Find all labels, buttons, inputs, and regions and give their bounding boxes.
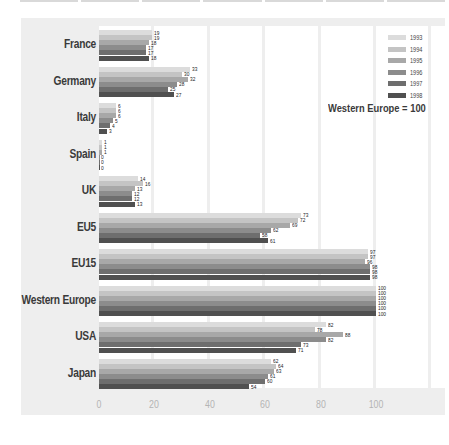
- legend-swatch: [388, 93, 406, 98]
- legend-item: 1997: [388, 78, 426, 90]
- x-tick-label: 0: [97, 398, 102, 410]
- category-label: Western Europe: [0, 293, 96, 307]
- top-divider-strip: [20, 0, 445, 3]
- bar-value-label: 72: [300, 217, 305, 223]
- bar: [99, 129, 107, 134]
- bar-value-label: 1: [104, 149, 107, 155]
- legend-label: 1996: [410, 69, 422, 76]
- bar-value-label: 62: [273, 227, 278, 233]
- legend-item: 1996: [388, 67, 426, 79]
- x-tick-label: 100: [369, 398, 384, 410]
- legend-swatch: [388, 35, 406, 40]
- bar-value-label: 60: [267, 378, 272, 384]
- category-label: Japan: [0, 366, 96, 380]
- bar-value-label: 82: [328, 337, 333, 343]
- category-label: Spain: [0, 147, 96, 161]
- bar-value-label: 73: [303, 342, 308, 348]
- legend-item: 1993: [388, 32, 426, 44]
- bar-value-label: 82: [328, 322, 333, 328]
- legend-label: 1994: [410, 46, 422, 53]
- bar-value-label: 18: [151, 55, 156, 61]
- x-tick-label: 80: [316, 398, 326, 410]
- x-tick-label: 40: [205, 398, 215, 410]
- bar-value-label: 100: [378, 311, 386, 317]
- bar: [99, 348, 296, 353]
- bar-value-label: 27: [176, 92, 181, 98]
- legend-swatch: [388, 81, 406, 86]
- bar: [99, 384, 249, 389]
- bar-value-label: 5: [115, 118, 118, 124]
- legend-label: 1997: [410, 80, 422, 87]
- bar-value-label: 0: [101, 165, 104, 171]
- category-label: EU5: [0, 220, 96, 234]
- x-tick-label: 60: [260, 398, 270, 410]
- legend-item: 1998: [388, 90, 426, 102]
- bar: [99, 92, 174, 97]
- bar: [99, 275, 370, 280]
- bar-value-label: 71: [298, 347, 303, 353]
- bar-value-label: 63: [276, 368, 281, 374]
- x-tick-label: 20: [149, 398, 159, 410]
- bar-value-label: 3: [109, 128, 112, 134]
- chart-annotation: Western Europe = 100: [328, 102, 426, 114]
- bar: [99, 311, 376, 316]
- legend-swatch: [388, 47, 406, 52]
- bar: [99, 202, 135, 207]
- bar-value-label: 13: [137, 201, 142, 207]
- grid-band: [431, 26, 449, 388]
- category-label: France: [0, 37, 96, 51]
- bar: [99, 56, 149, 61]
- bar-value-label: 61: [270, 238, 275, 244]
- category-label: USA: [0, 329, 96, 343]
- category-label: UK: [0, 183, 96, 197]
- bar-value-label: 28: [179, 81, 184, 87]
- category-label: Germany: [0, 74, 96, 88]
- legend-label: 1995: [410, 57, 422, 64]
- bar-value-label: 54: [251, 384, 256, 390]
- legend-swatch: [388, 70, 406, 75]
- legend: 199319941995199619971998: [388, 32, 426, 101]
- bar-value-label: 4: [112, 123, 115, 129]
- bar-value-label: 16: [145, 181, 150, 187]
- legend-item: 1995: [388, 55, 426, 67]
- bar: [99, 238, 268, 243]
- legend-swatch: [388, 58, 406, 63]
- bar-value-label: 88: [345, 332, 350, 338]
- legend-label: 1998: [410, 92, 422, 99]
- category-label: Italy: [0, 110, 96, 124]
- category-label: EU15: [0, 256, 96, 270]
- bar-value-label: 69: [292, 222, 297, 228]
- bar-value-label: 6: [118, 113, 121, 119]
- bar-value-label: 98: [372, 274, 377, 280]
- bar: [99, 165, 100, 170]
- bar-value-label: 32: [190, 76, 195, 82]
- legend-item: 1994: [388, 44, 426, 56]
- bar-value-label: 33: [192, 66, 197, 72]
- legend-label: 1993: [410, 34, 422, 41]
